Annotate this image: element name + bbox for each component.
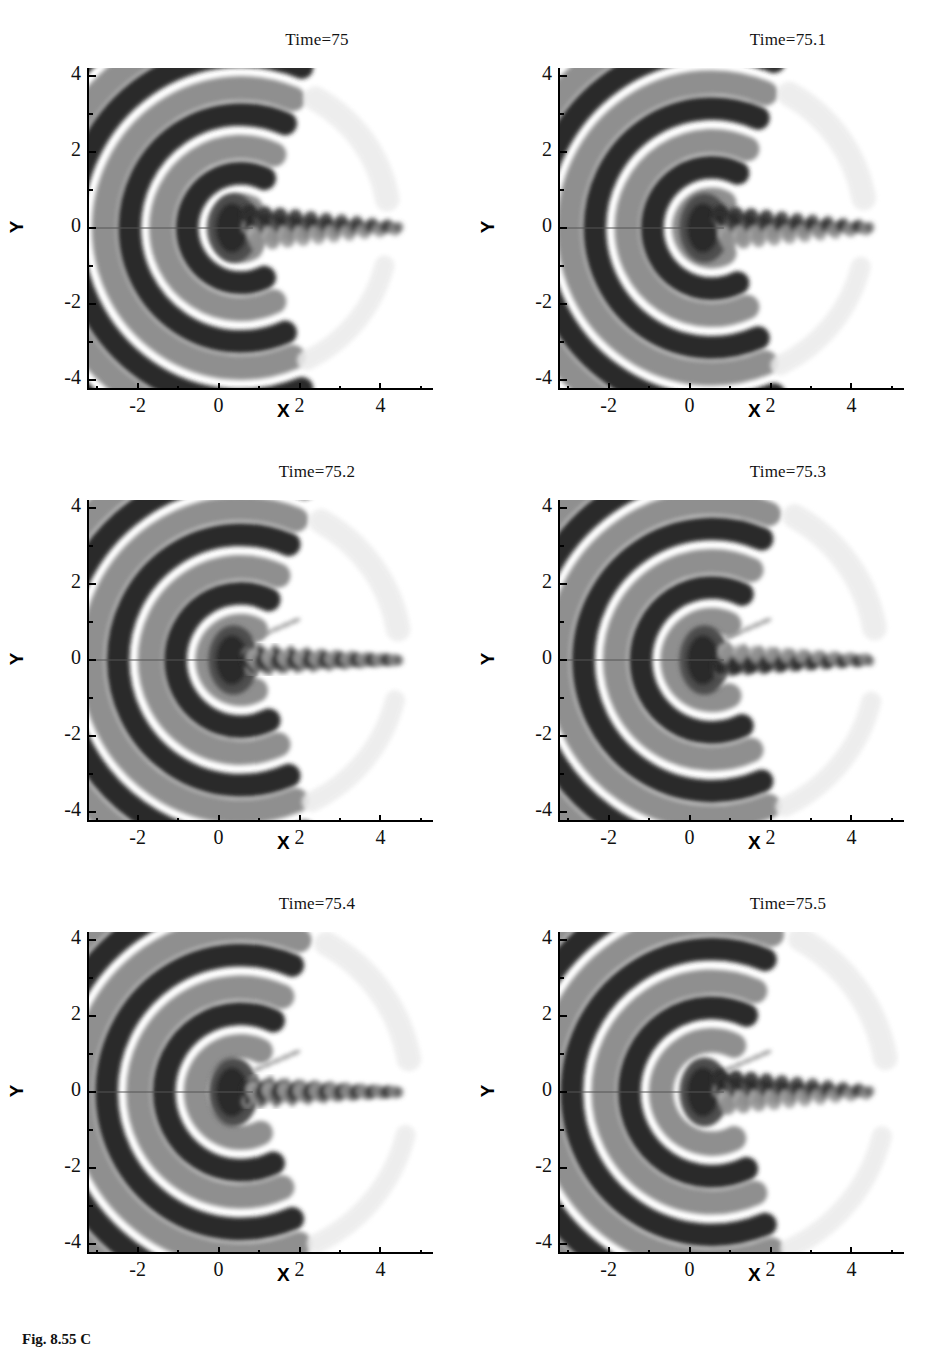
x-tick-minor xyxy=(567,386,569,390)
x-tick-label: 4 xyxy=(826,826,876,849)
y-tick-major xyxy=(560,303,567,305)
y-tick-major xyxy=(89,1091,96,1093)
x-tick-major xyxy=(850,815,852,822)
y-tick-label: -2 xyxy=(41,290,81,313)
x-tick-minor xyxy=(96,386,98,390)
y-tick-major xyxy=(89,379,96,381)
y-tick-major xyxy=(560,1167,567,1169)
x-tick-major xyxy=(689,815,691,822)
x-tick-major xyxy=(689,383,691,390)
x-tick-major xyxy=(379,383,381,390)
x-tick-minor xyxy=(810,1250,812,1254)
x-tick-major xyxy=(608,1247,610,1254)
x-tick-major xyxy=(218,815,220,822)
y-tick-minor xyxy=(560,977,564,979)
y-tick-label: 2 xyxy=(512,138,552,161)
y-tick-label: -2 xyxy=(512,290,552,313)
y-tick-minor xyxy=(89,773,93,775)
y-tick-major xyxy=(89,659,96,661)
panel-0: Time=75 420-2-4-2024YX xyxy=(89,68,429,388)
y-tick-label: 2 xyxy=(512,570,552,593)
x-tick-minor xyxy=(891,818,893,822)
x-axis-label: X xyxy=(742,400,766,422)
y-tick-label: 4 xyxy=(41,926,81,949)
y-tick-label: -4 xyxy=(41,366,81,389)
contour-plot-area xyxy=(560,932,900,1252)
y-tick-minor xyxy=(560,621,564,623)
y-tick-major xyxy=(89,75,96,77)
x-tick-major xyxy=(299,815,301,822)
y-tick-label: 2 xyxy=(41,1002,81,1025)
x-tick-minor xyxy=(258,386,260,390)
contour-plot-area xyxy=(89,500,429,820)
x-tick-minor xyxy=(810,818,812,822)
x-tick-major xyxy=(299,1247,301,1254)
y-tick-minor xyxy=(89,113,93,115)
y-tick-major xyxy=(560,1243,567,1245)
y-tick-major xyxy=(560,659,567,661)
y-tick-minor xyxy=(89,1129,93,1131)
x-tick-label: 4 xyxy=(355,394,405,417)
x-tick-major xyxy=(608,383,610,390)
x-tick-minor xyxy=(567,1250,569,1254)
y-tick-major xyxy=(560,1091,567,1093)
x-tick-label: 0 xyxy=(194,1258,244,1281)
y-tick-major xyxy=(560,227,567,229)
y-tick-minor xyxy=(560,189,564,191)
y-tick-label: -2 xyxy=(41,722,81,745)
y-axis-label: Y xyxy=(6,1079,28,1103)
x-tick-label: 0 xyxy=(194,826,244,849)
x-tick-minor xyxy=(567,818,569,822)
x-axis-label: X xyxy=(271,400,295,422)
contour-plot-area xyxy=(560,500,900,820)
y-tick-minor xyxy=(89,189,93,191)
x-tick-major xyxy=(770,1247,772,1254)
x-tick-minor xyxy=(420,386,422,390)
x-tick-major xyxy=(850,1247,852,1254)
x-tick-minor xyxy=(729,818,731,822)
contour-plot-area xyxy=(560,68,900,388)
x-tick-major xyxy=(299,383,301,390)
x-tick-label: -2 xyxy=(584,826,634,849)
y-tick-major xyxy=(89,303,96,305)
y-tick-minor xyxy=(560,773,564,775)
y-tick-major xyxy=(560,811,567,813)
x-tick-label: -2 xyxy=(113,394,163,417)
x-tick-minor xyxy=(339,1250,341,1254)
x-tick-major xyxy=(689,1247,691,1254)
figure-caption: Fig. 8.55 C xyxy=(22,1331,282,1348)
y-tick-major xyxy=(560,583,567,585)
y-tick-minor xyxy=(89,265,93,267)
y-tick-label: 4 xyxy=(512,926,552,949)
x-tick-label: 4 xyxy=(355,1258,405,1281)
x-tick-minor xyxy=(891,386,893,390)
x-tick-label: 4 xyxy=(826,394,876,417)
contour-plot-area xyxy=(89,932,429,1252)
y-tick-minor xyxy=(89,977,93,979)
x-tick-label: 0 xyxy=(194,394,244,417)
y-tick-label: -4 xyxy=(512,798,552,821)
y-tick-minor xyxy=(560,1053,564,1055)
y-tick-minor xyxy=(560,545,564,547)
panel-5: Time=75.5 420-2-4-2024YX xyxy=(560,932,900,1252)
y-tick-label: 4 xyxy=(41,494,81,517)
panel-3: Time=75.3 420-2-4-2024YX xyxy=(560,500,900,820)
x-tick-label: 0 xyxy=(665,1258,715,1281)
x-tick-label: 0 xyxy=(665,394,715,417)
y-tick-major xyxy=(89,507,96,509)
panel-title: Time=75.1 xyxy=(668,30,908,50)
x-tick-minor xyxy=(729,386,731,390)
x-tick-minor xyxy=(96,818,98,822)
y-tick-label: -4 xyxy=(512,366,552,389)
y-tick-major xyxy=(89,583,96,585)
y-tick-minor xyxy=(560,1129,564,1131)
y-tick-minor xyxy=(560,341,564,343)
x-axis-label: X xyxy=(271,1264,295,1286)
x-tick-minor xyxy=(420,1250,422,1254)
y-tick-major xyxy=(89,227,96,229)
x-tick-minor xyxy=(729,1250,731,1254)
x-tick-label: 4 xyxy=(826,1258,876,1281)
x-tick-major xyxy=(770,383,772,390)
x-tick-major xyxy=(379,1247,381,1254)
y-tick-label: 2 xyxy=(41,570,81,593)
